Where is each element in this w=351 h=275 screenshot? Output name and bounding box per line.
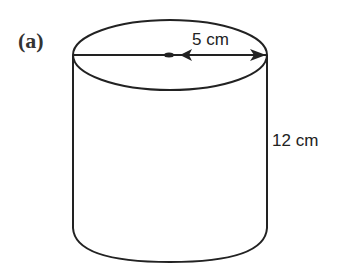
part-label: (a) bbox=[18, 28, 44, 54]
height-label: 12 cm bbox=[272, 131, 318, 151]
radius-label: 5 cm bbox=[192, 30, 229, 50]
center-point bbox=[164, 53, 174, 58]
bottom-curve bbox=[73, 228, 267, 262]
